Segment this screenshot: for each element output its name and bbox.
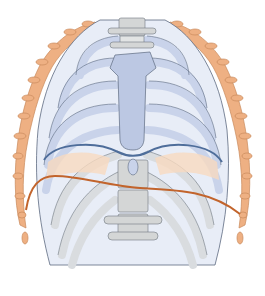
xiphoid-process [128,159,138,175]
rib-cage-illustration [0,0,265,296]
